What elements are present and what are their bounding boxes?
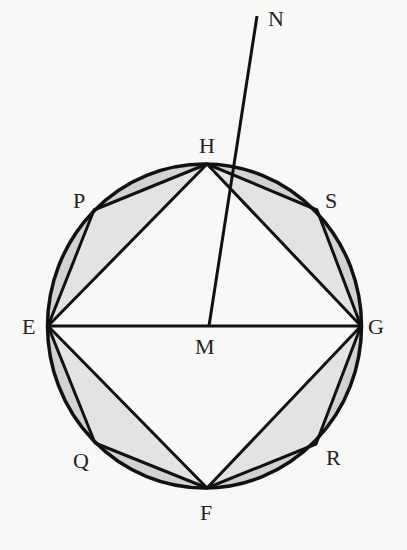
label-E: E xyxy=(22,314,35,339)
diagram-svg: N H P S E G M Q R F xyxy=(0,0,407,550)
label-M: M xyxy=(195,334,215,359)
geometry-diagram: N H P S E G M Q R F xyxy=(0,0,407,550)
label-N: N xyxy=(268,6,284,31)
label-H: H xyxy=(199,133,215,158)
label-Q: Q xyxy=(73,448,89,473)
label-P: P xyxy=(73,188,85,213)
label-F: F xyxy=(200,500,212,525)
label-S: S xyxy=(325,188,337,213)
label-R: R xyxy=(326,445,341,470)
label-G: G xyxy=(368,314,384,339)
